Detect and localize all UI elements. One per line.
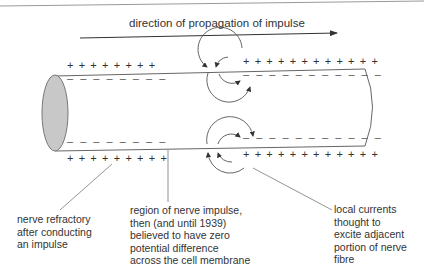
direction-label: direction of propagation of impulse xyxy=(129,17,305,29)
right-bottom-negative-charges: – – – – – – – – – – – xyxy=(243,131,383,143)
leader-refractory xyxy=(60,164,112,210)
fibre-cross-section xyxy=(42,75,68,151)
left-top-positive-charges: + + + + + + + + xyxy=(67,59,156,71)
label-refractory: nerve refractory after conducting an imp… xyxy=(17,213,92,251)
label-impulse-region: region of nerve impulse, then (and until… xyxy=(130,204,250,267)
bottom-local-current-loops xyxy=(207,117,253,173)
right-bottom-positive-charges: + + + + + + + + + + + + xyxy=(243,148,379,160)
right-top-positive-charges: + + + + + + + + + + + + xyxy=(243,55,379,67)
left-bottom-positive-charges: + + + + + + + + + xyxy=(67,152,168,164)
right-top-negative-charges: – – – – – – – – – – – xyxy=(243,68,383,80)
leader-local-currents xyxy=(253,168,332,210)
label-local-currents: local currents thought to excite adjacen… xyxy=(334,203,407,266)
top-rule xyxy=(0,1,424,6)
direction-arrow xyxy=(80,33,337,38)
left-top-negative-charges: – – – – – – – – xyxy=(67,72,167,84)
left-bottom-negative-charges: – – – – – – – – xyxy=(67,135,167,147)
